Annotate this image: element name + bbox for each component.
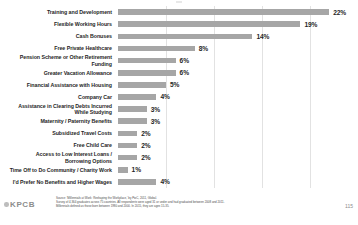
- bar: [118, 106, 147, 112]
- category-label-line: I'd Prefer No Benefits and Higher Wages: [0, 179, 112, 185]
- category-label-line: Time Off to Do Community / Charity Work: [0, 167, 112, 173]
- bar-value-label: 19%: [304, 21, 317, 28]
- bar-value-label: 2%: [141, 142, 150, 149]
- bar: [118, 9, 329, 15]
- bar: [118, 58, 176, 64]
- logo-dot-icon: [4, 202, 9, 207]
- bar-value-label: 4%: [160, 178, 169, 185]
- bar-row: 19%: [118, 18, 358, 30]
- bar-value-label: 2%: [141, 154, 150, 161]
- bar: [118, 179, 156, 185]
- category-label-line: Borrowing Options: [0, 158, 112, 164]
- bar-value-label: 8%: [199, 45, 208, 52]
- category-label-line: Cash Bonuses: [0, 33, 112, 39]
- bar-value-label: 3%: [151, 106, 160, 113]
- top-edge-mark: [176, 1, 182, 3]
- bar-value-label: 14%: [256, 33, 269, 40]
- category-label-line: Free Private Healthcare: [0, 45, 112, 51]
- category-label-line: Funding: [0, 61, 112, 67]
- category-label: Free Child Care: [0, 142, 112, 148]
- category-label-line: Maternity / Paternity Benefits: [0, 118, 112, 124]
- category-label-line: Training and Development: [0, 9, 112, 15]
- category-label: Flexible Working Hours: [0, 21, 112, 27]
- bar: [118, 143, 137, 149]
- kpcb-logo: KPCB: [4, 200, 35, 209]
- kpcb-logo-text: KPCB: [10, 200, 35, 209]
- category-label: Cash Bonuses: [0, 33, 112, 39]
- bar-value-label: 1%: [132, 166, 141, 173]
- source-line: Millennials defined as those born betwee…: [56, 205, 306, 209]
- category-label: Financial Assistance with Housing: [0, 82, 112, 88]
- category-label-line: Free Child Care: [0, 142, 112, 148]
- bar-row: 4%: [118, 91, 358, 103]
- plot-area: 22%19%14%8%6%6%5%4%3%3%2%2%2%1%4%: [118, 6, 358, 188]
- bar-value-label: 6%: [180, 69, 189, 76]
- category-label: Assistance in Clearing Debts IncurredWhi…: [0, 103, 112, 115]
- category-label: Greater Vacation Allowance: [0, 70, 112, 76]
- bar-value-label: 6%: [180, 57, 189, 64]
- bar: [118, 21, 300, 27]
- bar: [118, 70, 176, 76]
- bar: [118, 34, 252, 40]
- bar-row: 2%: [118, 139, 358, 151]
- bar-row: 22%: [118, 6, 358, 18]
- category-label-line: Flexible Working Hours: [0, 21, 112, 27]
- bar-row: 3%: [118, 115, 358, 127]
- bar: [118, 82, 166, 88]
- category-label: Training and Development: [0, 9, 112, 15]
- bar: [118, 167, 128, 173]
- bar: [118, 131, 137, 137]
- bar-row: 1%: [118, 164, 358, 176]
- source-citation: Source: 'Millennials at Work: Reshaping …: [56, 197, 306, 209]
- bar-row: 6%: [118, 67, 358, 79]
- category-label: Pension Scheme or Other RetirementFundin…: [0, 54, 112, 66]
- bar-value-label: 4%: [160, 93, 169, 100]
- bar-value-label: 22%: [333, 9, 346, 16]
- bar-rows: 22%19%14%8%6%6%5%4%3%3%2%2%2%1%4%: [118, 6, 358, 188]
- category-label-line: Greater Vacation Allowance: [0, 70, 112, 76]
- bar-row: 3%: [118, 103, 358, 115]
- benefits-bar-chart: Training and DevelopmentFlexible Working…: [0, 6, 358, 188]
- page-number: 115: [345, 203, 353, 209]
- bar-value-label: 3%: [151, 118, 160, 125]
- bar: [118, 46, 195, 52]
- slide: Training and DevelopmentFlexible Working…: [0, 0, 358, 225]
- bar: [118, 94, 156, 100]
- category-label-line: While Studying: [0, 109, 112, 115]
- category-label: Maternity / Paternity Benefits: [0, 118, 112, 124]
- category-axis-labels: Training and DevelopmentFlexible Working…: [0, 6, 115, 188]
- category-label-line: Subsidized Travel Costs: [0, 130, 112, 136]
- bar-value-label: 2%: [141, 130, 150, 137]
- bar-row: 4%: [118, 176, 358, 188]
- category-label: Company Car: [0, 94, 112, 100]
- bar-row: 2%: [118, 152, 358, 164]
- category-label: Free Private Healthcare: [0, 45, 112, 51]
- category-label: Time Off to Do Community / Charity Work: [0, 167, 112, 173]
- bar-row: 2%: [118, 127, 358, 139]
- bar-row: 8%: [118, 42, 358, 54]
- bar: [118, 118, 147, 124]
- bar-row: 14%: [118, 30, 358, 42]
- category-label-line: Company Car: [0, 94, 112, 100]
- category-label-line: Financial Assistance with Housing: [0, 82, 112, 88]
- category-label: Access to Low Interest Loans /Borrowing …: [0, 151, 112, 163]
- category-label: I'd Prefer No Benefits and Higher Wages: [0, 179, 112, 185]
- bar-row: 6%: [118, 55, 358, 67]
- bar-row: 5%: [118, 79, 358, 91]
- bar: [118, 155, 137, 161]
- category-label: Subsidized Travel Costs: [0, 130, 112, 136]
- bar-value-label: 5%: [170, 81, 179, 88]
- slide-footer: KPCB Source: 'Millennials at Work: Resha…: [0, 195, 358, 225]
